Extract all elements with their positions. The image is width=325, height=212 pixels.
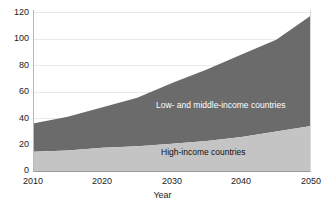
y-tick-label-0: 0 — [3, 166, 29, 175]
x-tick-label-2050: 2050 — [291, 177, 325, 186]
stacked-area-chart: 120 100 80 60 40 20 0 Low- and middle-in… — [0, 0, 325, 212]
series-annotation-low-middle-income: Low- and middle-income countries — [156, 101, 285, 110]
x-tick-label-2010: 2010 — [13, 177, 53, 186]
y-tick-label-40: 40 — [3, 114, 29, 123]
y-tick-label-60: 60 — [3, 87, 29, 96]
y-tick-label-80: 80 — [3, 61, 29, 70]
y-tick-label-100: 100 — [3, 34, 29, 43]
x-tick-label-2020: 2020 — [82, 177, 122, 186]
series-annotation-high-income: High-income countries — [161, 148, 246, 157]
x-tick-label-2030: 2030 — [152, 177, 192, 186]
x-axis-title: Year — [0, 191, 325, 200]
y-tick-label-20: 20 — [3, 140, 29, 149]
x-tick-label-2040: 2040 — [221, 177, 261, 186]
y-tick-label-120: 120 — [3, 8, 29, 17]
